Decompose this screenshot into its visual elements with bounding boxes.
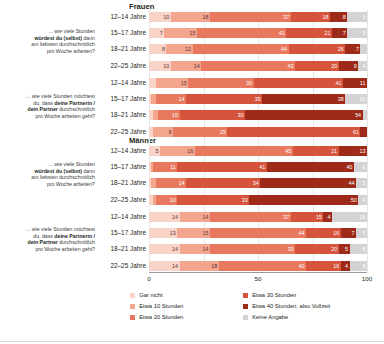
table-row: 2925613 (149, 127, 367, 137)
row-label-age: 12–14 Jahre (80, 12, 146, 22)
group-header-men: Männer (129, 136, 156, 145)
bar-segment: 15 (177, 228, 210, 238)
table-row: 14143715416 (149, 212, 367, 222)
table-row: 715412179 (149, 28, 367, 38)
bar-segment: 8 (350, 261, 367, 271)
x-axis-tick-label: 0 (147, 275, 150, 282)
bar-segment: 37 (210, 212, 291, 222)
legend-swatch-icon (130, 293, 135, 298)
row-label-age: 12–14 Jahre (80, 212, 146, 222)
bar-segment: 39 (210, 244, 295, 254)
bar-segment: 9 (153, 127, 173, 137)
bar-segment: 3 (360, 127, 367, 137)
x-axis-line (149, 272, 367, 273)
bar-segment: 14 (180, 212, 211, 222)
bar-segment: 16 (306, 228, 341, 238)
bar-segment: 7 (341, 228, 356, 238)
bar-segment: 15 (164, 28, 197, 38)
bar-segment: 18 (171, 12, 210, 22)
bar-segment: 10 (156, 195, 178, 205)
bar-segment: 30 (188, 78, 253, 88)
bar-segment: 8 (350, 244, 367, 254)
bar-segment: 45 (195, 146, 293, 156)
bar-segment: 2 (363, 110, 367, 120)
table-row: 315304111 (149, 78, 367, 88)
row-label-age: 22–25 Jahre (80, 261, 146, 271)
bar-segment: 14 (171, 61, 202, 71)
bar-segment: 5 (339, 244, 350, 254)
table-row: 516452113 (149, 146, 367, 156)
table-row: 1315441675 (149, 228, 367, 238)
bar-segment: 10 (345, 94, 367, 104)
bar-segment: 13 (339, 146, 367, 156)
legend-label: Keine Angabe (252, 313, 288, 322)
bar-segment: 8 (330, 12, 347, 22)
legend-item[interactable]: Etwa 40 Stunden, also Vollzeit (243, 302, 330, 311)
bar-segment: 37 (210, 12, 291, 22)
legend-swatch-icon (130, 304, 135, 309)
bar-segment: 40 (267, 162, 354, 172)
bar-segment: 35 (186, 94, 262, 104)
bar-segment: 43 (201, 61, 295, 71)
bar-segment: 7 (149, 28, 164, 38)
bar-segment: 11 (153, 162, 177, 172)
bar-segment: 16 (160, 146, 195, 156)
legend-item[interactable]: Gar nicht (130, 291, 183, 300)
row-label-age: 18–21 Jahre (80, 110, 146, 120)
bar-segment: 4 (358, 195, 367, 205)
bar-segment: 25 (173, 127, 228, 137)
bar-segment: 26 (289, 44, 346, 54)
row-label-age: 12–14 Jahre (80, 146, 146, 156)
bar-segment: 20 (295, 244, 339, 254)
legend-swatch-icon (243, 293, 248, 298)
bar-segment: 3 (360, 44, 367, 54)
bar-segment: 7 (332, 28, 347, 38)
x-axis-tick-label: 100 (362, 275, 372, 282)
legend-item[interactable]: Etwa 30 Stunden (243, 291, 330, 300)
bar-segment: 18 (180, 261, 219, 271)
bar-segment: 61 (227, 127, 360, 137)
bar-segment: 12 (166, 44, 192, 54)
bar-segment: 5 (149, 146, 160, 156)
row-label-age: 22–25 Jahre (80, 127, 146, 137)
table-row: 111141406 (149, 162, 367, 172)
legend-item[interactable]: Etwa 10 Stunden (130, 302, 183, 311)
bar-segment: 10 (158, 110, 180, 120)
table-row: 1418401648 (149, 261, 367, 271)
gridline (367, 10, 368, 272)
legend-item[interactable]: Keine Angabe (243, 313, 330, 322)
bar-segment: 54 (245, 110, 363, 120)
bar-segment: 16 (306, 261, 341, 271)
legend-swatch-icon (130, 315, 135, 320)
bar-segment: 14 (156, 94, 187, 104)
table-row: 211033504 (149, 195, 367, 205)
bar-segment: 50 (249, 195, 358, 205)
bar-segment: 4 (341, 261, 350, 271)
bar-segment: 44 (193, 44, 289, 54)
table-row: 1214353810 (149, 94, 367, 104)
legend-swatch-icon (243, 315, 248, 320)
row-label-age: 15–17 Jahre (80, 228, 146, 238)
bar-segment: 5 (356, 228, 367, 238)
legend-label: Etwa 20 Stunden (139, 313, 183, 322)
table-row: 812442673 (149, 44, 367, 54)
bar-segment: 41 (254, 78, 343, 88)
bar-segment: 33 (177, 195, 249, 205)
legend-item[interactable]: Etwa 20 Stunden (130, 313, 183, 322)
bottom-rule (0, 341, 384, 342)
bar-segment: 13 (149, 228, 177, 238)
bar-segment: 41 (177, 162, 266, 172)
group-header-women: Frauen (129, 2, 154, 11)
bar-segment: 20 (295, 61, 339, 71)
legend-label: Etwa 30 Stunden (252, 291, 296, 300)
row-label-age: 18–21 Jahre (80, 44, 146, 54)
bar-segment: 6 (354, 162, 367, 172)
bar-segment: 4 (358, 61, 367, 71)
row-label-age: 15–17 Jahre (80, 94, 146, 104)
bar-segment: 8 (149, 44, 166, 54)
bar-segment: 21 (286, 28, 332, 38)
bar-segment: 18 (291, 12, 330, 22)
bar-segment: 40 (219, 261, 306, 271)
row-label-age: 15–17 Jahre (80, 162, 146, 172)
bar-segment: 15 (156, 78, 189, 88)
